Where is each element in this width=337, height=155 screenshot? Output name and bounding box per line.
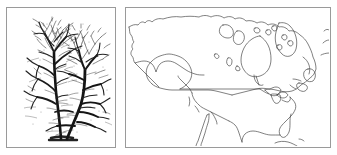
figure-root: Black and white photograph of a leafless… — [0, 0, 337, 155]
map-panel: Unlabeled outline map of North America s… — [125, 7, 331, 148]
tree-panel-alt: Black and white photograph of a leafless… — [7, 8, 8, 9]
north-america-outline-map — [127, 9, 329, 146]
tree-panel-inner: Black and white photograph of a leafless… — [7, 8, 115, 147]
tree-panel: Black and white photograph of a leafless… — [6, 7, 116, 148]
bare-tree-photograph — [11, 12, 113, 145]
map-panel-inner: Unlabeled outline map of North America s… — [126, 8, 330, 147]
